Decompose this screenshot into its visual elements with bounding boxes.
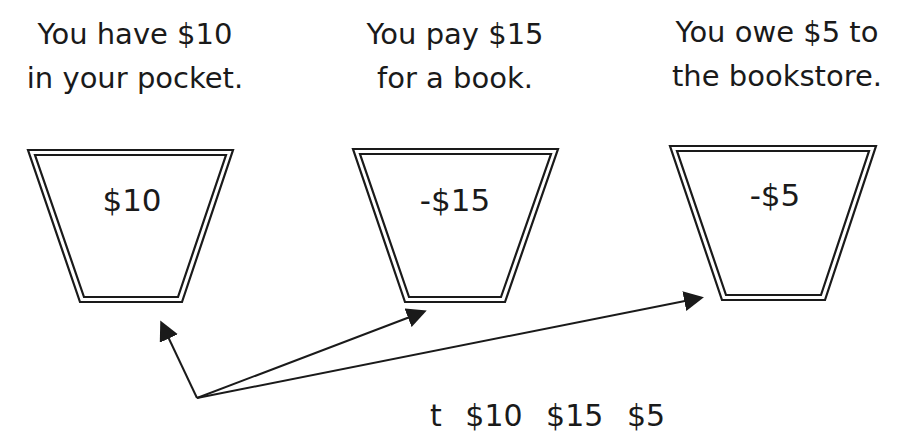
arrows: [162, 298, 700, 398]
arrow-to-bucket-3: [197, 298, 700, 398]
bottom-equation-clipped: t $10 $15 $5: [430, 398, 665, 433]
bucket-1-value: $10: [92, 182, 172, 218]
arrow-to-bucket-2: [197, 312, 423, 398]
bucket-3-value: -$5: [725, 177, 825, 213]
bucket-1: [28, 150, 233, 302]
bucket-2: [353, 149, 558, 302]
arrow-to-bucket-1: [162, 324, 197, 398]
bucket-3: [670, 146, 876, 300]
bucket-2-value: -$15: [400, 182, 510, 218]
